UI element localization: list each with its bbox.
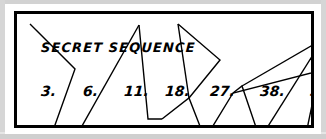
sequence-number-51: 51.	[309, 83, 314, 99]
sequence-number-18: 18.	[164, 83, 190, 99]
sequence-number-6: 6.	[82, 83, 98, 99]
paper-edge-bottom	[0, 134, 326, 139]
sequence-number-27: 27.	[209, 83, 235, 99]
page-title: SECRET SEQUENCE	[41, 40, 196, 55]
paper-edge-right	[321, 0, 326, 139]
puzzle-frame-border: SECRET SEQUENCE 3.6.11.18.27.38.51.	[14, 11, 314, 128]
cracked-glass-artwork	[17, 14, 314, 128]
sequence-number-3: 3.	[40, 83, 56, 99]
artwork-line-9	[242, 39, 314, 86]
artwork-line-4	[162, 98, 205, 128]
puzzle-card: SECRET SEQUENCE 3.6.11.18.27.38.51.	[5, 4, 321, 134]
screenshot-root: SECRET SEQUENCE 3.6.11.18.27.38.51.	[0, 0, 326, 139]
sequence-number-38: 38.	[259, 83, 285, 99]
artwork-line-12	[305, 71, 314, 128]
artwork-line-1	[82, 126, 122, 128]
sequence-number-11: 11.	[123, 83, 149, 99]
